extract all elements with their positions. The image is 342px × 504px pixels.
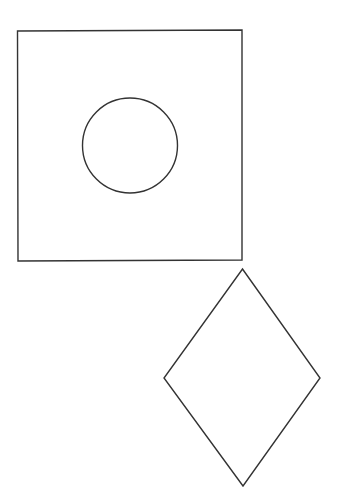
diagram-canvas (0, 0, 342, 504)
diamond-shape (164, 269, 320, 486)
circle-shape (83, 98, 178, 193)
square-shape (18, 30, 243, 261)
